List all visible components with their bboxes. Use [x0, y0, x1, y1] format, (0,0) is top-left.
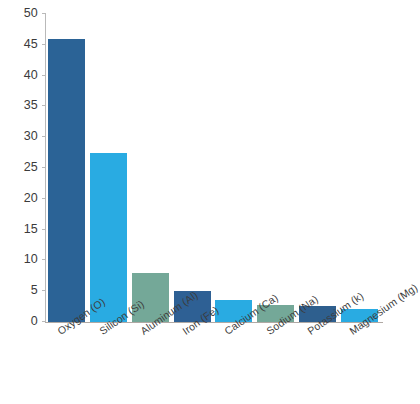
y-axis-tick-label: 30 [24, 128, 38, 145]
y-axis-tick-label: 0 [31, 313, 38, 330]
bar [90, 153, 127, 322]
plot-area [46, 14, 380, 322]
y-axis-tick-label: 35 [24, 97, 38, 114]
y-axis-tick-label: 5 [31, 282, 38, 299]
y-axis-tick-label: 10 [24, 251, 38, 268]
y-axis-tick-label: 40 [24, 67, 38, 84]
y-axis-tick-label: 15 [24, 221, 38, 238]
y-axis-tick-label: 45 [24, 36, 38, 53]
bar [48, 39, 85, 322]
y-axis-tick-label: 25 [24, 159, 38, 176]
y-axis-tick-label: 20 [24, 190, 38, 207]
y-axis-tick-label: 50 [24, 5, 38, 22]
